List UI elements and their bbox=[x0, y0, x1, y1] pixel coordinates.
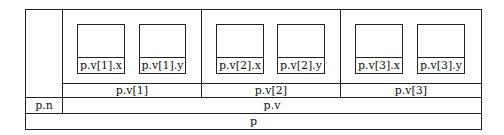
element-v3-y-box bbox=[417, 24, 465, 58]
element-v1-label: p.v[1] bbox=[116, 84, 148, 97]
field-v: p.v bbox=[62, 97, 482, 114]
element-v2-label: p.v[2] bbox=[255, 84, 287, 97]
element-v3-x: p.v[3].x bbox=[355, 57, 403, 74]
element-v3-y-label: p.v[3].y bbox=[420, 59, 462, 72]
element-v2-x: p.v[2].x bbox=[216, 57, 264, 74]
field-v-label: p.v bbox=[264, 99, 281, 112]
field-p: p bbox=[25, 113, 482, 130]
element-v1-x-label: p.v[1].x bbox=[80, 59, 122, 72]
element-v1-y-box bbox=[139, 24, 186, 58]
element-v1-x-box bbox=[77, 24, 125, 58]
field-n-label: p.n bbox=[35, 99, 53, 112]
element-v1-y-label: p.v[1].y bbox=[141, 59, 183, 72]
field-n: p.n bbox=[25, 97, 63, 114]
element-v2-y-box bbox=[277, 24, 325, 58]
element-v1-x: p.v[1].x bbox=[77, 57, 125, 74]
field-n-column bbox=[25, 9, 63, 98]
element-v1-y: p.v[1].y bbox=[139, 57, 186, 74]
element-v3-y: p.v[3].y bbox=[417, 57, 465, 74]
element-v2-x-box bbox=[216, 24, 264, 58]
element-v2-y-label: p.v[2].y bbox=[280, 59, 322, 72]
field-p-label: p bbox=[250, 115, 257, 128]
element-v2-label-band: p.v[2] bbox=[201, 83, 341, 98]
element-v3-x-box bbox=[355, 24, 403, 58]
element-v3-x-label: p.v[3].x bbox=[358, 59, 400, 72]
element-v3-label: p.v[3] bbox=[395, 84, 427, 97]
element-v1-label-band: p.v[1] bbox=[62, 83, 202, 98]
element-v3-label-band: p.v[3] bbox=[340, 83, 482, 98]
element-v2-y: p.v[2].y bbox=[277, 57, 325, 74]
element-v2-x-label: p.v[2].x bbox=[219, 59, 261, 72]
